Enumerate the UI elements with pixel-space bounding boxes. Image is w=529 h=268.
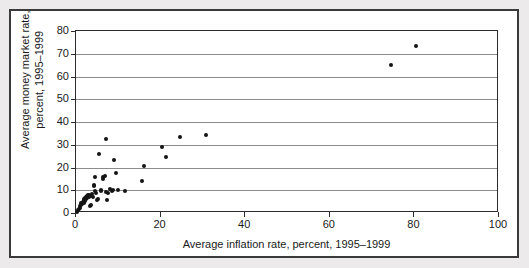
x-axis-tick-label: 0 [72, 219, 78, 230]
x-axis-tick-label: 60 [323, 219, 335, 230]
y-axis-tick-label: 50 [57, 93, 69, 104]
y-axis-tick-mark [71, 168, 76, 169]
x-axis-tick-mark [498, 212, 499, 217]
y-axis-tick-label: 60 [57, 70, 69, 81]
figure-frame: Average money market rate,percent, 1995–… [9, 9, 519, 258]
gridline [76, 99, 497, 100]
x-axis-tick-mark [75, 212, 76, 217]
x-axis-tick-labels: 020406080100 [75, 219, 498, 235]
data-point [414, 44, 418, 48]
data-point [178, 135, 182, 139]
x-axis-title: Average inflation rate, percent, 1995–19… [75, 238, 498, 250]
data-point [111, 188, 115, 192]
data-point [103, 174, 107, 178]
y-axis-tick-mark [71, 190, 76, 191]
data-point [204, 133, 208, 137]
data-point [160, 145, 164, 149]
data-point [123, 189, 127, 193]
gridline [76, 122, 497, 123]
x-axis-tick-mark [413, 212, 414, 217]
y-axis-title-line: Average money market rate, [19, 0, 33, 165]
y-axis-tick-mark [71, 99, 76, 100]
gridline [76, 168, 497, 169]
data-point [164, 155, 168, 159]
y-axis-tick-label: 0 [63, 207, 69, 218]
y-axis-tick-mark [71, 54, 76, 55]
gridline [76, 77, 497, 78]
data-point [104, 137, 108, 141]
data-point [93, 175, 97, 179]
y-axis-tick-label: 80 [57, 25, 69, 36]
y-axis-tick-mark [71, 31, 76, 32]
gridline [76, 145, 497, 146]
data-point [94, 191, 98, 195]
data-point [114, 171, 118, 175]
x-axis-tick-mark [244, 212, 245, 217]
data-point [96, 197, 100, 201]
scatter-chart: Average money market rate,percent, 1995–… [11, 11, 517, 256]
y-axis-tick-label: 40 [57, 116, 69, 127]
y-axis-tick-label: 20 [57, 161, 69, 172]
y-axis-tick-label: 70 [57, 47, 69, 58]
y-axis-tick-mark [71, 145, 76, 146]
x-axis-tick-label: 20 [153, 219, 165, 230]
y-axis-tick-mark [71, 122, 76, 123]
x-axis-tick-label: 80 [407, 219, 419, 230]
data-point [140, 179, 144, 183]
x-axis-tick-mark [160, 212, 161, 217]
y-axis-tick-labels: 01020304050607080 [41, 30, 69, 212]
x-axis-tick-label: 100 [489, 219, 507, 230]
data-point [89, 203, 93, 207]
data-point [99, 188, 103, 192]
y-axis-tick-label: 10 [57, 184, 69, 195]
gridline [76, 190, 497, 191]
x-axis-tick-label: 40 [238, 219, 250, 230]
y-axis-tick-label: 30 [57, 138, 69, 149]
data-point [389, 63, 393, 67]
data-point [112, 158, 116, 162]
plot-area [75, 30, 498, 212]
data-point [116, 188, 120, 192]
gridline [76, 54, 497, 55]
data-point [97, 152, 101, 156]
figure-root: Average money market rate,percent, 1995–… [0, 0, 529, 268]
x-axis-tick-marks [75, 212, 498, 218]
data-point [105, 198, 109, 202]
y-axis-tick-mark [71, 77, 76, 78]
x-axis-tick-mark [329, 212, 330, 217]
